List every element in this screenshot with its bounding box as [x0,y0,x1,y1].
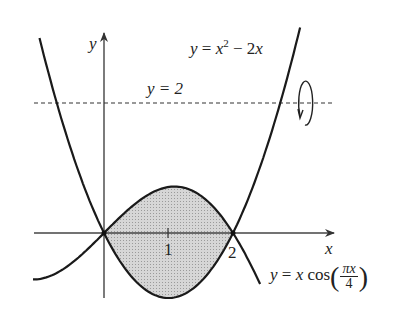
label-part: x [255,39,263,58]
paren-left: ( [330,261,339,292]
tick-label-2: 2 [228,244,237,261]
label-part: y [190,39,198,58]
fraction-denominator: 4 [340,277,357,291]
label-part: cos [303,265,330,284]
tick-label-1: 1 [164,241,173,258]
fraction: πx4 [340,262,357,291]
label-part: = [198,39,216,58]
figure: y x 1 2 y = 2 y = x2 − 2x y = x cos(πx4) [0,0,404,317]
fraction-numerator: πx [340,262,357,277]
x-axis-label: x [325,240,333,257]
intersection-origin [102,231,107,236]
paren-right: ) [359,261,368,292]
y-axis-label: y [89,35,97,52]
cosine-label: y = x cos(πx4) [270,262,368,291]
label-part: y [270,265,278,284]
intersection-x2 [231,231,236,236]
label-part: = [278,265,296,284]
line-label: y = 2 [147,80,183,97]
label-part: − 2 [229,39,256,58]
parabola-label: y = x2 − 2x [190,38,263,57]
